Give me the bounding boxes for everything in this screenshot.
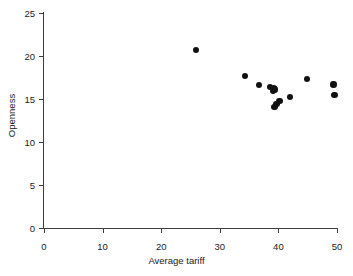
x-tick-mark xyxy=(278,229,279,233)
y-tick-mark xyxy=(39,228,43,229)
y-tick-label: 20 xyxy=(24,51,35,62)
y-tick-label: 0 xyxy=(30,223,35,234)
data-point-marker xyxy=(276,98,282,104)
x-tick-mark xyxy=(161,229,162,233)
data-point-marker xyxy=(304,76,310,82)
data-point-marker xyxy=(287,94,293,100)
y-axis-title: Openness xyxy=(6,76,17,156)
x-tick-label: 10 xyxy=(97,241,108,252)
x-tick-label: 50 xyxy=(332,241,343,252)
data-point-marker xyxy=(193,47,199,53)
x-tick-label: 0 xyxy=(41,241,46,252)
y-tick-mark xyxy=(39,13,43,14)
x-tick-mark xyxy=(103,229,104,233)
x-tick-label: 40 xyxy=(273,241,284,252)
x-tick-mark xyxy=(337,229,338,233)
x-axis-title: Average tariff xyxy=(0,255,353,266)
y-tick-mark xyxy=(39,142,43,143)
data-point-marker xyxy=(272,86,278,92)
x-tick-mark xyxy=(44,229,45,233)
y-tick-label: 15 xyxy=(24,94,35,105)
y-tick-mark xyxy=(39,99,43,100)
y-tick-label: 10 xyxy=(24,137,35,148)
data-point-marker xyxy=(330,81,336,87)
x-tick-label: 20 xyxy=(156,241,167,252)
y-tick-mark xyxy=(39,56,43,57)
x-axis-line xyxy=(43,228,338,229)
data-point-marker xyxy=(331,92,337,98)
y-tick-label: 25 xyxy=(24,8,35,19)
data-points-layer xyxy=(44,13,337,228)
y-tick-label: 5 xyxy=(30,180,35,191)
y-tick-mark xyxy=(39,185,43,186)
x-tick-label: 30 xyxy=(215,241,226,252)
data-point-marker xyxy=(242,73,248,79)
x-tick-mark xyxy=(220,229,221,233)
data-point-marker xyxy=(256,82,262,88)
scatter-plot-figure: 051015202501020304050 Average tariff Ope… xyxy=(0,0,353,276)
